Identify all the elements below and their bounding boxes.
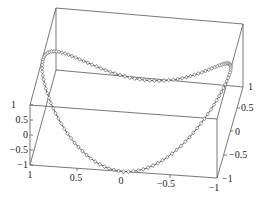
diamond-marker: [123, 74, 126, 78]
diamond-marker: [78, 57, 81, 61]
diamond-marker: [162, 79, 165, 83]
diamond-marker: [60, 51, 63, 55]
diamond-marker: [86, 61, 89, 65]
z-tick-label: −0.5: [10, 144, 28, 155]
diamond-marker: [142, 167, 145, 171]
diamond-marker: [64, 52, 67, 56]
diamond-marker: [151, 164, 154, 168]
diamond-marker: [185, 75, 188, 79]
x-tick-label: −1: [209, 182, 220, 193]
diamond-marker: [189, 74, 192, 78]
z-tick-label: 0: [23, 129, 28, 140]
x-tick-label: −0.5: [157, 178, 175, 189]
diamond-marker: [132, 169, 135, 173]
diamond-marker: [200, 70, 203, 74]
diamond-marker: [161, 158, 164, 162]
diamond-marker: [41, 74, 44, 78]
diamond-marker: [166, 155, 169, 159]
diamond-marker: [117, 169, 120, 173]
diamond-marker: [127, 170, 130, 174]
diamond-marker: [112, 168, 115, 172]
diamond-marker: [104, 68, 107, 72]
diamond-marker: [204, 69, 207, 73]
diamond-marker: [94, 160, 97, 164]
x-tick-label: 1: [28, 169, 33, 180]
z-tick-label: 1: [11, 99, 16, 110]
diamond-marker: [137, 168, 140, 172]
diamond-marker: [176, 77, 179, 81]
diamond-marker: [99, 66, 102, 70]
diamond-marker: [148, 79, 151, 83]
y-tick-label: 1: [248, 81, 253, 92]
diamond-marker: [70, 54, 73, 58]
diamond-marker: [107, 166, 110, 170]
x-tick-label: 0.5: [70, 172, 83, 183]
diamond-marker: [103, 165, 106, 169]
diamond-marker: [207, 68, 210, 72]
diamond-marker: [156, 161, 159, 165]
diamond-marker: [167, 78, 170, 82]
z-tick-label: 0.5: [16, 114, 29, 125]
diamond-marker: [143, 78, 146, 82]
diamond-marker: [57, 50, 60, 54]
diamond-marker: [90, 63, 93, 67]
y-tick-label: −0.5: [229, 149, 247, 160]
z-tick-label: −1: [17, 159, 28, 170]
diamond-marker: [49, 101, 52, 105]
diamond-marker: [128, 76, 131, 80]
x-tick-label: 0: [119, 175, 124, 186]
y-tick-label: 0: [235, 126, 240, 137]
plot-box: [30, 8, 243, 178]
diamond-marker: [147, 166, 150, 170]
diamond-marker: [122, 170, 125, 174]
diamond-marker: [44, 86, 47, 90]
diamond-marker: [42, 78, 45, 82]
y-tick-label: 0.5: [241, 102, 254, 113]
diamond-marker: [98, 162, 101, 166]
diamond-marker: [197, 72, 200, 76]
y-tick-label: −1: [222, 173, 233, 184]
diamond-marker: [67, 53, 70, 57]
diamond-marker: [95, 65, 98, 69]
3d-plot: 1 0.5 0 −0.5 −1 1 0.5 0 −0.5 −1 −1 −0.5 …: [0, 0, 258, 200]
diamond-marker: [43, 82, 46, 86]
diamond-marker: [181, 76, 184, 80]
diamond-marker: [118, 73, 121, 77]
diamond-marker: [109, 70, 112, 74]
diamond-marker: [46, 91, 49, 95]
diamond-marker: [74, 56, 77, 60]
diamond-marker: [82, 59, 85, 63]
data-curve: [41, 49, 233, 173]
diamond-marker: [193, 73, 196, 77]
y-axis: −1 −0.5 0 0.5 1: [222, 81, 254, 184]
z-axis: 1 0.5 0 −0.5 −1: [10, 99, 33, 170]
